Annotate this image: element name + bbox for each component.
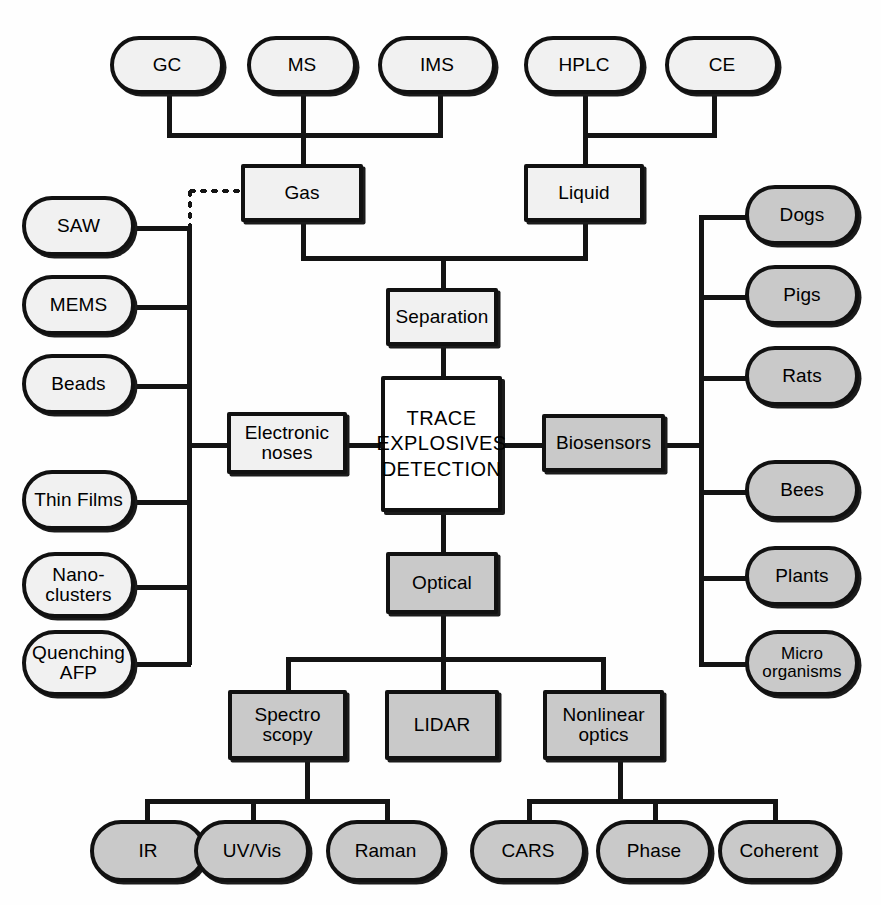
connector-spectroscopy-stem — [286, 657, 291, 691]
connector-dotted-vertical — [187, 188, 193, 231]
node-ims[interactable]: IMS — [378, 36, 496, 94]
connector-optical-stem — [441, 615, 446, 660]
connector-gc-stem — [167, 94, 172, 136]
connector-ce-stem — [712, 94, 717, 136]
node-lidar[interactable]: LIDAR — [385, 690, 499, 760]
connector-nonlinear-down — [618, 759, 623, 802]
connector-separation-stem — [441, 256, 446, 290]
node-dogs[interactable]: Dogs — [745, 185, 859, 245]
connector-separation-center — [441, 344, 446, 378]
node-phase[interactable]: Phase — [596, 820, 712, 882]
node-ce[interactable]: CE — [665, 36, 779, 94]
node-spectroscopy[interactable]: Spectro scopy — [228, 690, 347, 760]
node-coherent[interactable]: Coherent — [718, 820, 840, 882]
node-bees[interactable]: Bees — [745, 460, 859, 520]
connector-pigs-link — [699, 295, 747, 300]
node-beads[interactable]: Beads — [22, 354, 135, 414]
connector-bees-link — [699, 490, 747, 495]
connector-spectroscopy-bus — [145, 799, 390, 804]
connector-liquid-down — [583, 222, 588, 259]
connector-thinfilms-link — [133, 500, 191, 505]
connector-gas-bus — [167, 133, 443, 138]
node-raman[interactable]: Raman — [326, 820, 445, 882]
node-cars[interactable]: CARS — [470, 820, 586, 882]
connector-bus-biosensors — [663, 443, 703, 448]
node-rats[interactable]: Rats — [745, 346, 859, 406]
connector-lidar-stem — [441, 657, 446, 691]
connector-gas-down — [301, 222, 306, 259]
connector-nanoclusters-link — [133, 585, 191, 590]
node-saw[interactable]: SAW — [22, 196, 135, 256]
node-mems[interactable]: MEMS — [22, 275, 135, 335]
connector-quenching-link — [133, 662, 191, 667]
node-gas[interactable]: Gas — [241, 164, 363, 222]
node-nano-clusters[interactable]: Nano- clusters — [22, 552, 135, 618]
connector-biosensor-bus — [699, 215, 704, 665]
connector-ims-stem — [438, 94, 443, 136]
connector-liquid-bus — [583, 133, 717, 138]
node-biosensors[interactable]: Biosensors — [542, 414, 665, 472]
connector-beads-link — [133, 384, 191, 389]
node-electronic-noses[interactable]: Electronic noses — [227, 412, 347, 474]
connector-rats-link — [699, 376, 747, 381]
connector-dogs-link — [699, 215, 747, 220]
node-liquid[interactable]: Liquid — [524, 164, 644, 222]
node-separation[interactable]: Separation — [386, 288, 498, 346]
node-uv-vis[interactable]: UV/Vis — [194, 820, 310, 882]
connector-bus-enose — [187, 443, 229, 448]
node-gc[interactable]: GC — [110, 36, 224, 94]
node-ms[interactable]: MS — [247, 36, 357, 94]
diagram-canvas: GC MS IMS HPLC CE Gas Liquid Separation … — [0, 0, 881, 905]
node-thin-films[interactable]: Thin Films — [22, 470, 135, 530]
node-trace-explosives-detection[interactable]: TRACE EXPLOSIVES DETECTION — [381, 376, 502, 512]
connector-microorganisms-link — [699, 662, 747, 667]
node-plants[interactable]: Plants — [745, 546, 859, 606]
node-hplc[interactable]: HPLC — [524, 36, 644, 94]
node-ir[interactable]: IR — [90, 820, 206, 882]
node-pigs[interactable]: Pigs — [745, 265, 859, 325]
connector-spectroscopy-down — [305, 759, 310, 802]
node-optical[interactable]: Optical — [386, 552, 498, 614]
connector-mems-link — [133, 305, 191, 310]
connector-saw-link — [133, 226, 191, 231]
connector-nonlinear-stem — [601, 657, 606, 691]
node-micro-organisms[interactable]: Micro organisms — [745, 630, 859, 696]
connector-plants-link — [699, 576, 747, 581]
connector-center-optical — [441, 510, 446, 552]
node-quenching-afp[interactable]: Quenching AFP — [22, 630, 135, 696]
connector-optical-bus — [286, 657, 606, 662]
node-nonlinear-optics[interactable]: Nonlinear optics — [543, 690, 664, 760]
